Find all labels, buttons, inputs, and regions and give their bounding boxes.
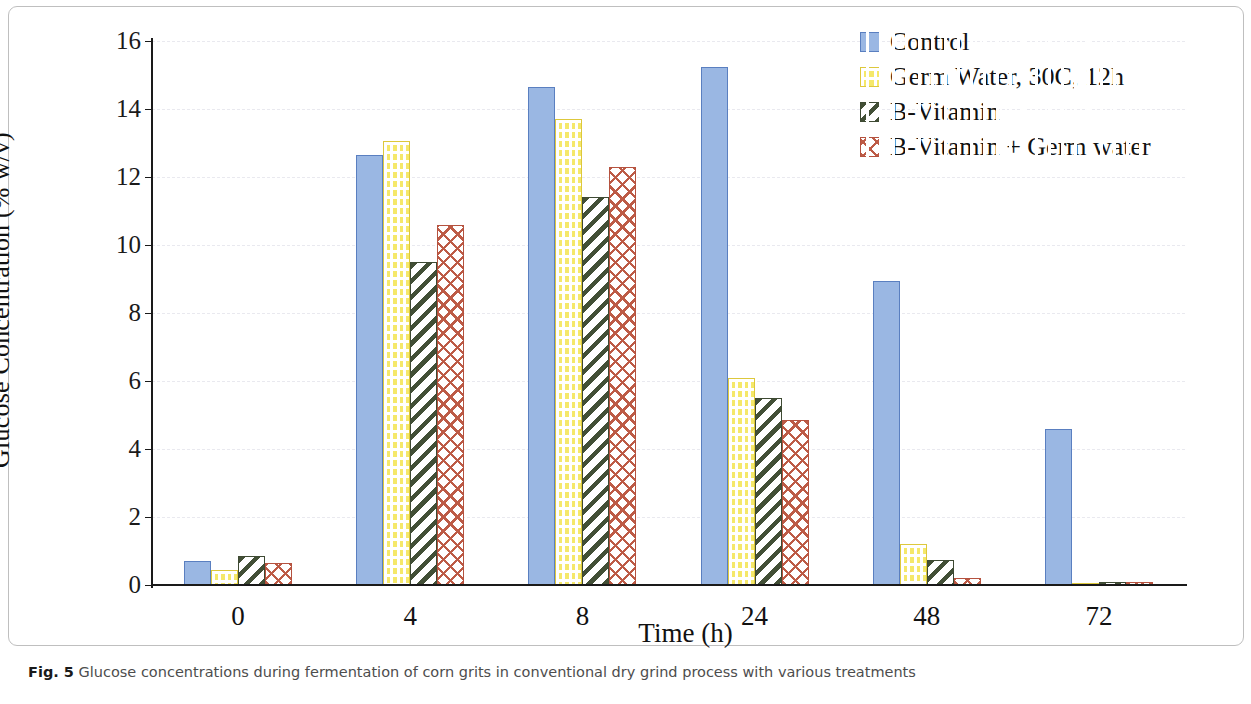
y-tick-label: 12 [116,163,141,191]
bar [900,544,927,585]
legend-item: Control [860,28,1151,56]
bar [927,560,954,586]
bar [211,570,238,585]
legend: ControlGerm Water, 30C, 12hB-VitaminB-Vi… [860,28,1151,161]
legend-item: B-Vitamin [860,98,1151,126]
bar [184,561,211,585]
bar [728,378,755,585]
bar [265,563,292,585]
legend-label: B-Vitamin + Germ water [890,134,1151,160]
bar [755,398,782,585]
y-axis: 0246810121416 [151,38,153,588]
y-tick-label: 14 [116,95,141,123]
bar-cluster [528,41,636,585]
bar [609,167,636,585]
legend-item: B-Vitamin + Germ water [860,133,1151,161]
y-tick-mark [145,41,153,42]
y-tick-mark [145,109,153,110]
legend-swatch [860,67,880,87]
y-axis-title: Glucose Concentration (% w/v) [0,132,16,468]
y-tick-mark [145,245,153,246]
y-tick-label: 6 [129,367,142,395]
bar-cluster [701,41,809,585]
y-tick-label: 10 [116,231,141,259]
legend-label: Control [890,29,969,55]
bar [782,420,809,585]
bar-cluster [184,41,292,585]
bar-cluster [356,41,464,585]
bar [873,281,900,585]
bar [383,141,410,585]
legend-label: B-Vitamin [890,99,1000,125]
bar [410,262,437,585]
y-tick-mark [145,177,153,178]
bar-group: 0 [152,41,324,585]
y-tick-mark [145,313,153,314]
bar [238,556,265,585]
bar-group: 4 [324,41,496,585]
y-tick-label: 2 [129,503,142,531]
figure-caption: Fig. 5 Glucose concentrations during fer… [28,664,1238,680]
caption-text: Glucose concentrations during fermentati… [79,664,916,680]
x-axis [151,584,1187,586]
legend-label: Germ Water, 30C, 12h [890,64,1124,90]
y-tick-label: 0 [129,571,142,599]
y-tick-label: 4 [129,435,142,463]
bar [528,87,555,585]
y-tick-mark [145,517,153,518]
y-tick-mark [145,381,153,382]
legend-swatch [860,137,880,157]
legend-swatch [860,102,880,122]
bar [437,225,464,585]
y-tick-mark [145,449,153,450]
x-axis-title: Time (h) [0,618,1251,649]
legend-item: Germ Water, 30C, 12h [860,63,1151,91]
bar-group: 24 [669,41,841,585]
bar [1045,429,1072,585]
bar-group: 8 [496,41,668,585]
bar [555,119,582,585]
bar [356,155,383,585]
y-tick-label: 16 [116,27,141,55]
bar [582,197,609,585]
figure-root: Glucose Concentration (% w/v) 048244872 … [0,0,1251,704]
bar [701,67,728,586]
y-tick-label: 8 [129,299,142,327]
caption-label: Fig. 5 [28,664,74,680]
legend-swatch [860,32,880,52]
